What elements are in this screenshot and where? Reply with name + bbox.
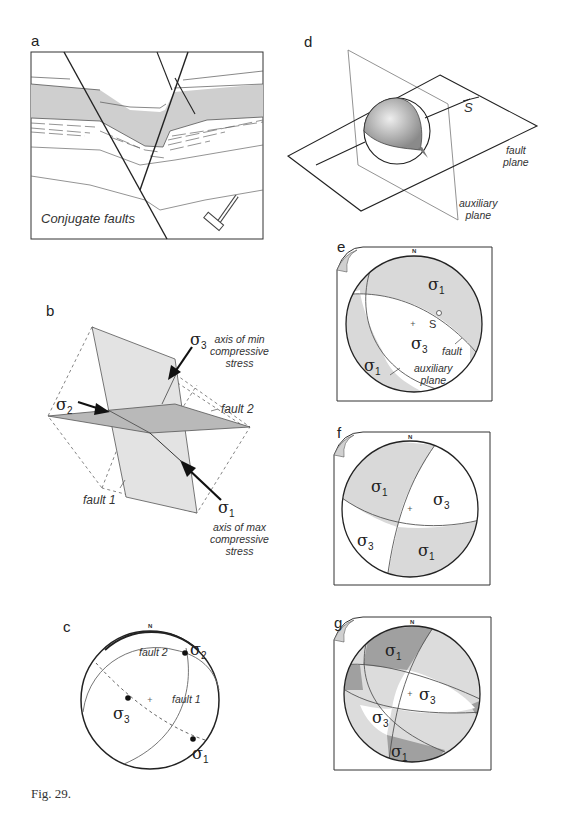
- slip-label-e: S: [429, 318, 436, 330]
- sigma2-label-b: σ2: [56, 395, 72, 416]
- sigma3-label-g-center: σ3: [419, 685, 435, 706]
- figure-caption: Fig. 29.: [31, 786, 71, 802]
- panel-letter-a: a: [31, 32, 39, 49]
- sigma3-label-f-left: σ3: [357, 531, 373, 552]
- panel-letter-c: c: [63, 618, 71, 635]
- max-axis-label: axis of max compressive stress: [210, 521, 269, 557]
- panel-g-stereonet: +: [334, 617, 491, 770]
- north-label-g: N: [410, 619, 414, 625]
- svg-text:+: +: [407, 504, 412, 514]
- auxiliary-plane-label-d: auxiliary plane: [459, 197, 498, 221]
- fault1-label-c: fault 1: [172, 693, 201, 705]
- sigma1-label-c: σ1: [192, 744, 208, 765]
- north-label-e: N: [412, 248, 416, 254]
- sigma1-label-e-top: σ1: [428, 275, 444, 296]
- svg-text:+: +: [407, 689, 412, 699]
- sigma3-label-g-left: σ3: [372, 708, 388, 729]
- min-axis-label: axis of min compressive stress: [210, 333, 269, 369]
- sigma3-label-b: σ3: [190, 330, 206, 351]
- fault2-label-b: fault 2: [221, 403, 254, 415]
- svg-text:+: +: [147, 695, 152, 705]
- panel-letter-g: g: [334, 614, 342, 631]
- north-label-f: N: [408, 434, 412, 440]
- north-label-c: N: [148, 623, 152, 629]
- sigma1-label-e-bottom: σ1: [364, 356, 380, 377]
- figure-graphics: + +: [0, 0, 569, 813]
- sigma3-label-c: σ3: [113, 704, 129, 725]
- fault1-label-b: fault 1: [83, 494, 116, 506]
- panel-letter-e: e: [337, 238, 345, 255]
- panel-d-focal-sphere: [288, 50, 537, 220]
- sigma1-label-f-top: σ1: [371, 477, 387, 498]
- svg-text:+: +: [410, 319, 415, 329]
- conjugate-faults-label: Conjugate faults: [41, 213, 135, 225]
- sigma1-label-f-bottom: σ1: [418, 541, 434, 562]
- sigma3-label-f-right: σ3: [433, 490, 449, 511]
- sigma2-label-c: σ2: [190, 640, 206, 661]
- panel-letter-f: f: [337, 424, 341, 441]
- sigma1-label-g-bottom: σ1: [391, 742, 407, 763]
- panel-letter-b: b: [46, 302, 54, 319]
- fault-plane-label: fault plane: [503, 144, 529, 168]
- sigma1-label-g-top: σ1: [385, 641, 401, 662]
- slip-vector-label: S: [464, 102, 473, 114]
- sigma3-label-e: σ3: [411, 334, 427, 355]
- panel-f-stereonet: +: [334, 432, 490, 585]
- auxiliary-plane-label-e: auxiliary plane: [414, 362, 453, 386]
- fault2-label-c: fault 2: [139, 646, 168, 658]
- sigma1-label-b: σ1: [218, 498, 234, 519]
- fault-label-e: fault: [442, 345, 462, 357]
- panel-letter-d: d: [304, 33, 312, 50]
